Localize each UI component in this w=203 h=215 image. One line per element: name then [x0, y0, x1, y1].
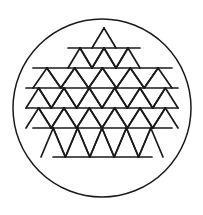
lattice-figure-svg: [0, 0, 203, 215]
figure-container: Triangular lattice inscribed in a circle…: [0, 0, 203, 215]
